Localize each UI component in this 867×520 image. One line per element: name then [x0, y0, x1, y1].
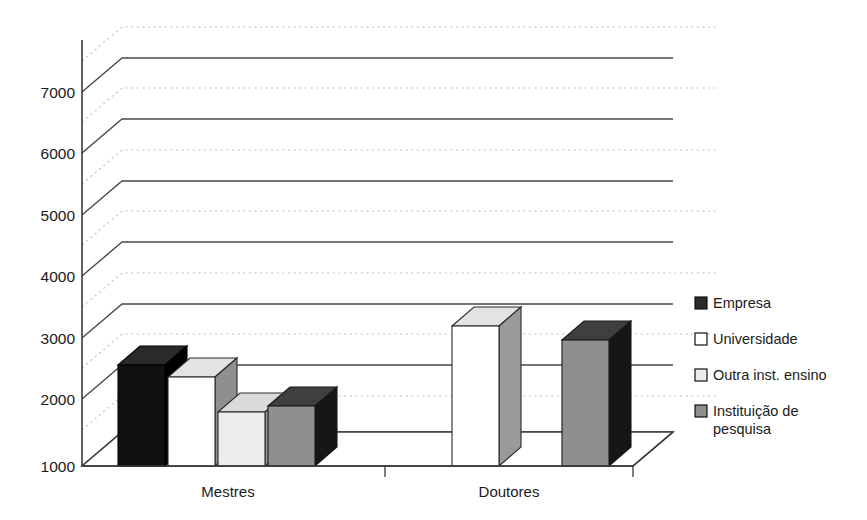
bar-doutores-universidade[interactable]: [452, 307, 521, 466]
y-tick-label-7000: 7000: [41, 84, 76, 101]
bar-group-mestres: [118, 346, 337, 466]
legend-label-empresa: Empresa: [713, 295, 772, 311]
bar-front-face: [268, 406, 315, 466]
major-gridline-4000: [82, 242, 673, 276]
legend-label-universidade: Universidade: [713, 331, 798, 347]
minor-gridline-4500: [82, 211, 718, 245]
y-tick-label-4000: 4000: [41, 268, 76, 285]
major-gridline-7000: [82, 58, 673, 92]
legend-item-empresa[interactable]: Empresa: [695, 295, 772, 311]
major-gridline-5000: [82, 181, 673, 215]
y-tick-label-6000: 6000: [41, 145, 76, 162]
minor-gridline-6500: [82, 88, 718, 122]
legend: Empresa Universidade Outra inst. ensino …: [695, 295, 827, 437]
legend-item-universidade[interactable]: Universidade: [695, 331, 798, 347]
bar-front-face: [118, 365, 165, 466]
category-label-mestres: Mestres: [201, 483, 254, 500]
legend-item-outra-inst-ensino[interactable]: Outra inst. ensino: [695, 367, 827, 383]
bar-front-face: [452, 326, 499, 466]
bar-doutores-instituicao-pesquisa[interactable]: [562, 321, 631, 466]
legend-label-instituicao-pesquisa-line2: pesquisa: [713, 421, 772, 437]
bar-front-face: [168, 377, 215, 466]
legend-label-outra-inst-ensino: Outra inst. ensino: [713, 367, 827, 383]
y-tick-label-2000: 2000: [41, 391, 76, 408]
chart-container: 7000 6000 5000 4000 3000 2000 1000 Mestr…: [0, 0, 867, 520]
minor-gridline-7500: [82, 27, 718, 61]
dark-swatch-icon: [695, 297, 707, 309]
y-tick-labels: 7000 6000 5000 4000 3000 2000 1000: [41, 84, 76, 475]
bar-side-face: [609, 321, 631, 466]
bar-front-face: [218, 412, 265, 466]
bar-mestres-instituicao-pesquisa[interactable]: [268, 387, 337, 466]
category-labels: Mestres Doutores: [201, 483, 539, 500]
legend-item-instituicao-pesquisa[interactable]: Instituição de pesquisa: [695, 403, 798, 437]
bar-front-face: [562, 340, 609, 466]
bar-chart-3d: 7000 6000 5000 4000 3000 2000 1000 Mestr…: [0, 0, 867, 520]
gray-swatch-icon: [695, 405, 707, 417]
y-tick-label-5000: 5000: [41, 207, 76, 224]
minor-gridline-3500: [82, 273, 718, 307]
category-label-doutores: Doutores: [479, 483, 540, 500]
y-tick-label-1000: 1000: [41, 458, 76, 475]
y-tick-label-3000: 3000: [41, 330, 76, 347]
legend-label-instituicao-pesquisa-line1: Instituição de: [713, 403, 798, 419]
bar-side-face: [499, 307, 521, 466]
light-swatch-icon: [695, 369, 707, 381]
white-swatch-icon: [695, 333, 707, 345]
minor-gridline-5500: [82, 150, 718, 184]
major-gridline-6000: [82, 119, 673, 153]
